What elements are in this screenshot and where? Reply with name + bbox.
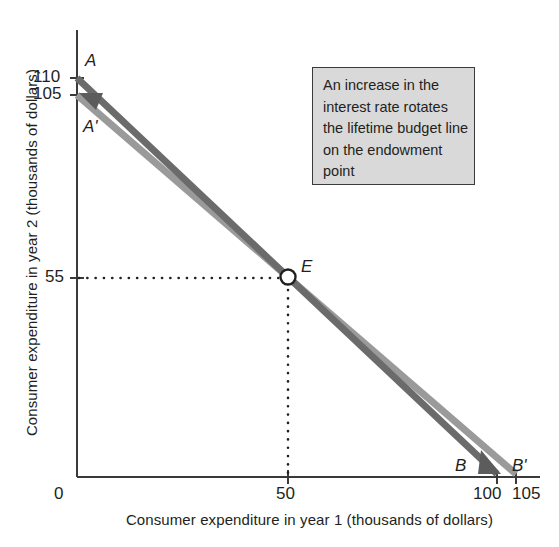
annotation-callout-box: An increase in the interest rate rotates… [312, 67, 475, 185]
budget-line-chart: 110 105 55 0 50 100 105 A A' B B' E An i… [0, 0, 559, 547]
point-label-b-prime: B' [512, 456, 527, 476]
point-label-a-prime: A' [83, 117, 98, 137]
y-axis-title: Consumer expenditure in year 2 (thousand… [23, 23, 40, 483]
y-tick-label-55: 55 [45, 267, 64, 287]
x-axis-title: Consumer expenditure in year 1 (thousand… [60, 511, 559, 528]
x-tick-label-0: 0 [54, 484, 63, 504]
point-label-b: B [455, 456, 466, 476]
x-tick-label-100: 100 [473, 484, 501, 504]
x-tick-label-105: 105 [512, 484, 540, 504]
point-label-a: A [85, 51, 96, 71]
annotation-callout-text: An increase in the interest rate rotates… [323, 75, 469, 183]
endowment-point-marker [281, 270, 296, 285]
point-label-e: E [301, 257, 312, 277]
chart-canvas [0, 0, 559, 547]
x-tick-label-50: 50 [276, 484, 295, 504]
